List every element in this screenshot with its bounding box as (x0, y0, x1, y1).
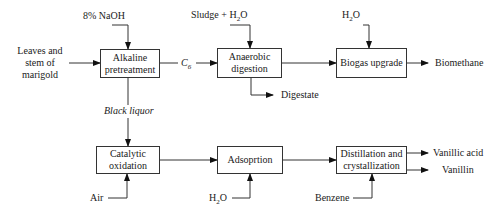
alkaline-line2: pretreatment (105, 64, 156, 76)
biogas-label: Biogas upgrade (340, 57, 403, 69)
digestate-label: Digestate (281, 89, 319, 101)
sludge-tail: O (240, 9, 247, 20)
biogas-upgrade-box: Biogas upgrade (336, 48, 407, 78)
anaerobic-line2: digestion (229, 63, 271, 75)
adsorption-box: Adsoprtion (217, 146, 283, 174)
catalytic-line2: oxidation (109, 160, 147, 172)
anaerobic-digestion-box: Anaerobic digestion (217, 48, 282, 78)
vanillic-acid-label: Vanillic acid (433, 147, 483, 159)
black-liquor-label: Black liquor (104, 105, 154, 117)
alkaline-pretreatment-box: Alkaline pretreatment (100, 49, 160, 78)
biomethane-label: Biomethane (435, 57, 483, 69)
sludge-label: Sludge + H2O (191, 9, 247, 25)
feedstock-line2: stem of (12, 57, 68, 69)
c6-sub: 6 (188, 63, 192, 71)
naoh-label: 8% NaOH (83, 10, 125, 22)
distillation-line2: crystallization (341, 160, 403, 172)
distillation-crystallization-box: Distillation and crystallization (336, 146, 407, 174)
h2o-biogas-o: O (353, 9, 360, 20)
anaerobic-line1: Anaerobic (229, 51, 271, 63)
sludge-text: Sludge + H (191, 9, 237, 20)
adsorption-label: Adsoprtion (228, 154, 273, 166)
feedstock-line1: Leaves and (12, 45, 68, 57)
feedstock-label: Leaves and stem of marigold (12, 45, 68, 81)
catalytic-oxidation-box: Catalytic oxidation (96, 146, 160, 174)
c6-label: C6 (181, 57, 191, 73)
h2o-biogas-label: H2O (342, 9, 360, 25)
air-label: Air (90, 192, 103, 204)
h2o-adsorption-label: H2O (209, 192, 227, 208)
feedstock-line3: marigold (12, 69, 68, 81)
h2o-ads-o: O (220, 192, 227, 203)
catalytic-line1: Catalytic (109, 148, 147, 160)
vanillin-label: Vanillin (442, 164, 474, 176)
flow-arrows (0, 0, 497, 213)
alkaline-line1: Alkaline (105, 52, 156, 64)
c6-text: C (181, 57, 188, 68)
benzene-label: Benzene (315, 192, 349, 204)
distillation-line1: Distillation and (341, 148, 403, 160)
